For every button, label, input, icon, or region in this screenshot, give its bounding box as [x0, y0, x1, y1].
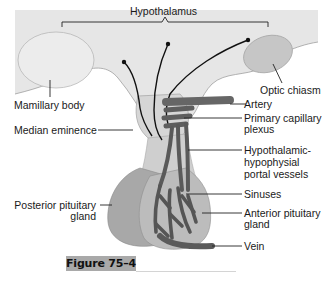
diagram-illustration	[0, 0, 330, 285]
label-portal-vessels-line2: hypophysial	[244, 157, 299, 168]
label-anterior-pituitary-line2: gland	[244, 219, 270, 230]
label-portal-vessels-line1: Hypothalamic-	[244, 145, 311, 156]
label-hypothalamus: Hypothalamus	[130, 6, 197, 17]
label-primary-capillary-plexus-line2: plexus	[244, 124, 274, 135]
pituitary-portal-diagram: Hypothalamus Mamillary body Optic chiasm…	[0, 0, 330, 285]
label-sinuses: Sinuses	[244, 189, 281, 200]
mamillary-body	[18, 32, 94, 88]
figure-caption: Figure 75–4	[66, 256, 136, 271]
label-optic-chiasm: Optic chiasm	[260, 85, 321, 96]
label-portal-vessels-line3: portal vessels	[244, 169, 308, 180]
caption-divider	[136, 271, 236, 272]
label-posterior-pituitary-line2: gland	[0, 211, 96, 222]
label-artery: Artery	[244, 99, 272, 110]
label-median-eminence: Median eminence	[14, 125, 97, 136]
artery	[166, 100, 230, 102]
label-vein: Vein	[244, 241, 264, 252]
label-mamillary-body: Mamillary body	[14, 100, 85, 111]
anterior-pituitary-gland	[139, 168, 210, 249]
